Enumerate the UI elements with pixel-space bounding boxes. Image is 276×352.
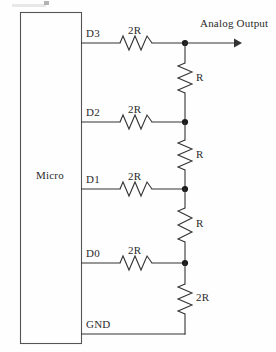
ladder-resistor-label-1: R — [196, 72, 204, 83]
resistor-label-2r-d0: 2R — [128, 245, 141, 256]
resistor-2r-d1-symbol — [120, 182, 152, 196]
resistor-r-1-symbol — [178, 63, 192, 93]
resistor-label-2r-d3: 2R — [128, 25, 141, 36]
pin-label-d3: D3 — [86, 28, 100, 39]
resistor-label-2r-d2: 2R — [128, 104, 141, 115]
resistor-2r-terminator-symbol — [178, 284, 192, 314]
analog-output-label: Analog Output — [200, 18, 268, 29]
pin-label-d2: D2 — [86, 107, 100, 118]
ladder-resistor-label-2: R — [196, 149, 204, 160]
pin-label-d1: D1 — [86, 174, 100, 185]
resistor-2r-d0-symbol — [120, 256, 152, 270]
ladder-resistor-label-3: R — [196, 218, 204, 229]
resistor-label-2r-d1: 2R — [128, 171, 141, 182]
ladder-resistor-label-4: 2R — [196, 292, 209, 303]
gnd-label: GND — [86, 319, 110, 330]
resistor-r-2-symbol — [178, 140, 192, 170]
resistor-r-3-symbol — [178, 208, 192, 242]
resistor-2r-d2-symbol — [120, 115, 152, 129]
arrow-head-icon — [234, 39, 242, 48]
pin-label-d0: D0 — [86, 248, 100, 259]
resistor-2r-d3-symbol — [120, 36, 152, 50]
circuit-diagram: Micro Analog Output D3 D2 D1 D0 2R 2R 2R… — [0, 0, 276, 352]
micro-block-label: Micro — [36, 170, 64, 181]
